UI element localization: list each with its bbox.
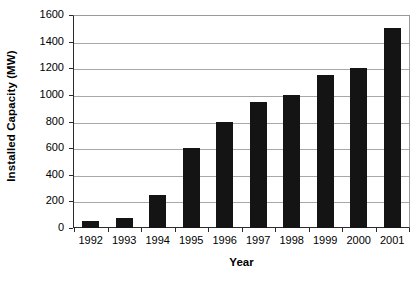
y-tick-mark	[69, 175, 73, 176]
bar-slot	[74, 15, 108, 228]
y-tick-mark	[69, 228, 73, 229]
bar	[283, 95, 300, 228]
y-tick-mark	[69, 15, 73, 16]
y-tick-label: 800	[20, 116, 64, 127]
bars-layer	[74, 15, 409, 228]
x-tick-label: 2001	[372, 234, 412, 246]
bar	[183, 148, 200, 228]
bar	[317, 75, 334, 228]
x-tick-mark	[309, 228, 310, 232]
y-tick-mark	[69, 42, 73, 43]
bar	[384, 28, 401, 228]
y-tick-label: 400	[20, 169, 64, 180]
bar-slot	[342, 15, 376, 228]
y-tick-mark	[69, 68, 73, 69]
x-tick-mark	[108, 228, 109, 232]
x-tick-mark	[376, 228, 377, 232]
bar	[250, 102, 267, 228]
y-tick-label: 600	[20, 142, 64, 153]
x-tick-mark	[74, 228, 75, 232]
y-tick-label: 0	[20, 222, 64, 233]
y-axis-title: Installed Capacity (MW)	[2, 0, 20, 232]
bar-slot	[208, 15, 242, 228]
x-tick-mark	[275, 228, 276, 232]
x-axis-title: Year	[73, 256, 410, 268]
y-tick-label: 200	[20, 195, 64, 206]
y-tick-mark	[69, 201, 73, 202]
bar-slot	[108, 15, 142, 228]
bar-slot	[309, 15, 343, 228]
bar-chart: Installed Capacity (MW) 0200400600800100…	[0, 0, 418, 281]
bar-slot	[242, 15, 276, 228]
y-tick-mark	[69, 148, 73, 149]
bar	[149, 195, 166, 228]
y-tick-mark	[69, 95, 73, 96]
y-tick-label: 1600	[20, 9, 64, 20]
x-tick-mark	[342, 228, 343, 232]
bar	[216, 122, 233, 229]
x-tick-mark	[141, 228, 142, 232]
bar	[350, 68, 367, 228]
bar-slot	[175, 15, 209, 228]
x-tick-mark	[242, 228, 243, 232]
bar-slot	[275, 15, 309, 228]
x-tick-mark	[175, 228, 176, 232]
y-tick-label: 1400	[20, 36, 64, 47]
y-tick-label: 1200	[20, 62, 64, 73]
y-tick-mark	[69, 122, 73, 123]
x-tick-mark	[208, 228, 209, 232]
bar	[82, 221, 99, 228]
x-tick-mark	[409, 228, 410, 232]
bar	[116, 218, 133, 228]
y-tick-label: 1000	[20, 89, 64, 100]
bar-slot	[376, 15, 410, 228]
bar-slot	[141, 15, 175, 228]
